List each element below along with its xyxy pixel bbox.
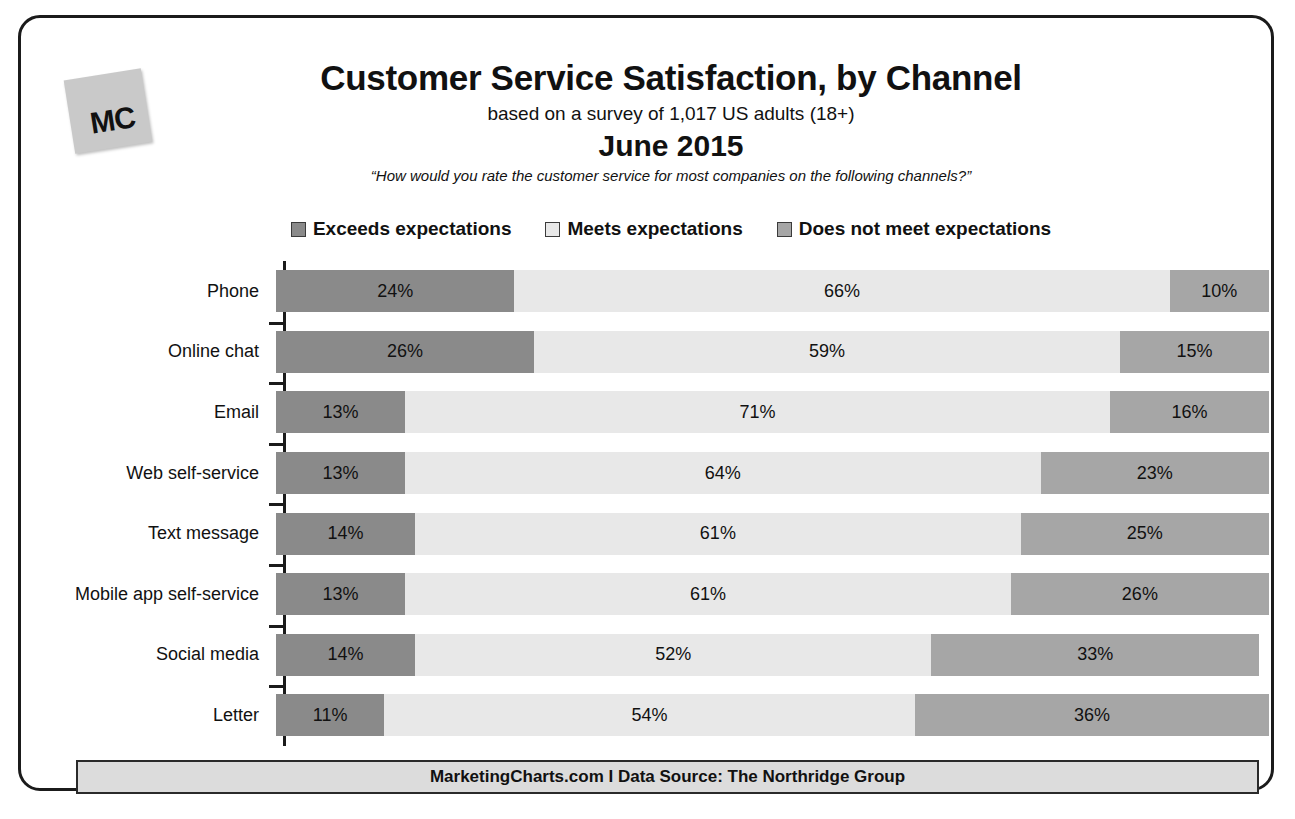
bar-segment[interactable]: 25% [1021,513,1269,555]
chart-row: Social media14%52%33% [59,625,1269,686]
chart-row: Mobile app self-service13%61%26% [59,564,1269,625]
category-label: Letter [59,705,271,726]
bar-segment[interactable]: 71% [405,391,1110,433]
survey-date: June 2015 [171,129,1171,164]
bar-segment[interactable]: 64% [405,452,1041,494]
category-label: Mobile app self-service [59,584,271,605]
bar-segment[interactable]: 33% [931,634,1259,676]
legend-label: Does not meet expectations [799,218,1051,240]
bar-segment[interactable]: 54% [384,694,915,736]
chart-frame: MC Customer Service Satisfaction, by Cha… [18,15,1274,791]
category-label: Phone [59,281,271,302]
bar-segment[interactable]: 15% [1120,331,1269,373]
category-label: Social media [59,644,271,665]
bar-segment[interactable]: 36% [915,694,1269,736]
logo-text: MC [82,102,139,151]
legend-label: Meets expectations [567,218,742,240]
stacked-bar: 26%59%15% [276,331,1269,373]
chart-row: Email13%71%16% [59,382,1269,443]
chart-plot-area: Phone24%66%10%Online chat26%59%15%Email1… [59,261,1269,746]
title-block: Customer Service Satisfaction, by Channe… [171,58,1171,184]
stacked-bar: 14%52%33% [276,634,1269,676]
category-label: Email [59,402,271,423]
footer-bar: MarketingCharts.com I Data Source: The N… [76,760,1259,794]
bar-segment[interactable]: 66% [514,270,1169,312]
bar-segment[interactable]: 24% [276,270,514,312]
chart-row: Text message14%61%25% [59,503,1269,564]
stacked-bar: 11%54%36% [276,694,1269,736]
chart-row: Phone24%66%10% [59,261,1269,322]
marketingcharts-logo: MC [64,68,153,153]
bar-segment[interactable]: 14% [276,634,415,676]
category-label: Text message [59,523,271,544]
legend-label: Exceeds expectations [313,218,512,240]
bar-segment[interactable]: 13% [276,573,405,615]
bar-segment[interactable]: 61% [415,513,1021,555]
category-label: Web self-service [59,463,271,484]
chart-row: Online chat26%59%15% [59,322,1269,383]
legend-swatch-icon [777,222,792,237]
legend-item-1[interactable]: Meets expectations [545,218,742,240]
stacked-bar: 13%61%26% [276,573,1269,615]
bar-segment[interactable]: 26% [276,331,534,373]
bar-segment[interactable]: 26% [1011,573,1269,615]
chart-legend: Exceeds expectationsMeets expectationsDo… [171,218,1171,240]
stacked-bar: 13%64%23% [276,452,1269,494]
stacked-bar: 13%71%16% [276,391,1269,433]
page-title: Customer Service Satisfaction, by Channe… [171,58,1171,97]
bar-segment[interactable]: 59% [534,331,1120,373]
footer-source-text: MarketingCharts.com I Data Source: The N… [430,767,905,787]
bar-segment[interactable]: 10% [1170,270,1269,312]
stacked-bar: 24%66%10% [276,270,1269,312]
legend-swatch-icon [545,222,560,237]
bar-segment[interactable]: 13% [276,452,405,494]
survey-question: “How would you rate the customer service… [171,167,1171,184]
bar-segment[interactable]: 23% [1041,452,1269,494]
bar-segment[interactable]: 14% [276,513,415,555]
category-label: Online chat [59,341,271,362]
bar-segment[interactable]: 61% [405,573,1011,615]
survey-subtitle: based on a survey of 1,017 US adults (18… [171,102,1171,127]
legend-item-2[interactable]: Does not meet expectations [777,218,1051,240]
chart-row: Letter11%54%36% [59,685,1269,746]
stacked-bar: 14%61%25% [276,513,1269,555]
bar-segment[interactable]: 52% [415,634,931,676]
legend-item-0[interactable]: Exceeds expectations [291,218,512,240]
bar-segment[interactable]: 16% [1110,391,1269,433]
bar-segment[interactable]: 11% [276,694,384,736]
bar-segment[interactable]: 13% [276,391,405,433]
chart-row: Web self-service13%64%23% [59,443,1269,504]
legend-swatch-icon [291,222,306,237]
